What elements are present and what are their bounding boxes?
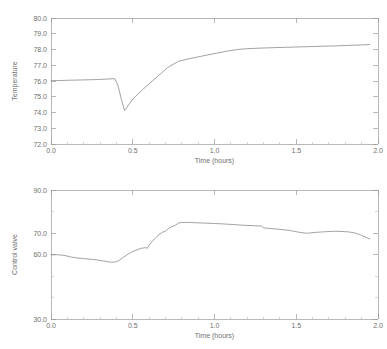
data-series-line: [51, 45, 370, 111]
plot-frame: [51, 18, 378, 144]
y-axis-tick-label: 70.0: [33, 230, 47, 237]
temperature-chart-panel: 72.073.074.075.076.077.078.079.080.00.00…: [0, 6, 387, 172]
x-axis-tick-label: 0.0: [46, 322, 56, 329]
control-valve-chart-svg: 30.060.070.090.00.00.51.01.52.0Time (hou…: [0, 176, 387, 349]
x-axis-tick-label: 0.5: [128, 147, 138, 154]
y-axis-title: Temperature: [11, 61, 19, 100]
x-axis-tick-label: 2.0: [373, 322, 383, 329]
x-axis-tick-label: 1.0: [210, 322, 220, 329]
x-axis-tick-label: 0.5: [128, 322, 138, 329]
temperature-chart-svg: 72.073.074.075.076.077.078.079.080.00.00…: [0, 6, 387, 172]
y-axis-tick-label: 73.0: [33, 125, 47, 132]
x-axis-tick-label: 1.5: [291, 322, 301, 329]
y-axis-tick-label: 72.0: [33, 141, 47, 148]
control-valve-chart-panel: 30.060.070.090.00.00.51.01.52.0Time (hou…: [0, 176, 387, 349]
y-axis-tick-label: 74.0: [33, 109, 47, 116]
y-axis-tick-label: 79.0: [33, 30, 47, 37]
y-axis-title: Control valve: [11, 234, 18, 275]
chart-page: .. 72.073.074.075.076.077.078.079.080.00…: [0, 0, 387, 349]
x-axis-tick-label: 0.0: [46, 147, 56, 154]
x-axis-tick-label: 1.5: [291, 147, 301, 154]
y-axis-tick-label: 60.0: [33, 251, 47, 258]
data-series-line: [51, 222, 370, 262]
y-axis-tick-label: 78.0: [33, 46, 47, 53]
plot-frame: [51, 190, 378, 319]
y-axis-tick-label: 75.0: [33, 93, 47, 100]
y-axis-tick-label: 90.0: [33, 187, 47, 194]
x-axis-title: Time (hours): [195, 332, 234, 340]
y-axis-tick-label: 80.0: [33, 15, 47, 22]
y-axis-tick-label: 76.0: [33, 78, 47, 85]
x-axis-title: Time (hours): [195, 157, 234, 165]
x-axis-tick-label: 2.0: [373, 147, 383, 154]
x-axis-tick-label: 1.0: [210, 147, 220, 154]
y-axis-tick-label: 77.0: [33, 62, 47, 69]
y-axis-tick-label: 30.0: [33, 316, 47, 323]
